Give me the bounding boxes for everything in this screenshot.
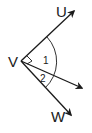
- angle-tick-mark: [27, 56, 32, 64]
- angle-label-1: 1: [43, 55, 49, 66]
- point-label-w: W: [51, 108, 66, 125]
- vertex-label-v: V: [8, 53, 18, 70]
- ray-middle: [21, 61, 82, 88]
- ray-vw: [21, 61, 71, 115]
- angle-diagram: V U W 1 2: [0, 0, 92, 133]
- angle-label-2: 2: [40, 73, 46, 84]
- point-label-u: U: [56, 3, 67, 20]
